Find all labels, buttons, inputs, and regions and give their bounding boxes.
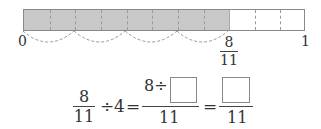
middle-numerator-prefix: 8÷ <box>144 76 168 95</box>
equals-sign-1: = <box>126 96 140 116</box>
lhs-denominator: 11 <box>74 108 94 125</box>
divide-sign: ÷ <box>100 96 114 116</box>
answer-box-1[interactable] <box>170 77 197 103</box>
marker-numerator: 8 <box>225 35 234 50</box>
start-label: 0 <box>18 33 27 49</box>
rhs-denominator: 11 <box>227 108 247 127</box>
jump-arcs <box>0 0 321 60</box>
middle-fraction-line <box>142 106 199 107</box>
lhs-numerator: 8 <box>79 88 89 105</box>
marker-fraction: 8 11 <box>220 35 238 68</box>
lhs-fraction: 8 11 <box>73 88 95 125</box>
divisor: 4 <box>114 96 125 116</box>
equals-sign-2: = <box>203 96 217 116</box>
answer-box-2[interactable] <box>222 77 250 103</box>
rhs-fraction-line <box>219 106 253 107</box>
middle-denominator: 11 <box>159 108 179 127</box>
end-label: 1 <box>301 33 310 49</box>
marker-denominator: 11 <box>220 53 238 68</box>
